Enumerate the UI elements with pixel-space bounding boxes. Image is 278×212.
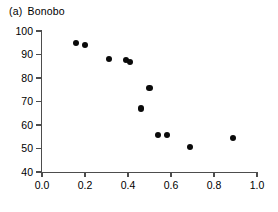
panel-tag-label: (a) (9, 5, 22, 17)
y-axis-tick (36, 148, 41, 149)
y-axis-tick-label: 90 (3, 49, 33, 60)
data-point (146, 85, 152, 91)
y-axis-tick-label: 80 (3, 73, 33, 84)
y-axis-tick-label: 70 (3, 96, 33, 107)
panel-title-label: Bonobo (27, 5, 64, 17)
x-axis-tick-label: 0.6 (151, 180, 191, 191)
x-axis-tick (213, 172, 214, 177)
data-point (138, 105, 144, 111)
y-axis-tick (36, 124, 41, 125)
y-axis-tick (36, 101, 41, 102)
data-point (106, 56, 112, 62)
y-axis-tick-label: 40 (3, 167, 33, 178)
data-point (164, 132, 170, 138)
x-axis-tick (256, 172, 257, 177)
y-axis-tick-label: 60 (3, 120, 33, 131)
y-axis-tick (36, 54, 41, 55)
x-axis-tick-label: 0.8 (194, 180, 234, 191)
x-axis-tick-label: 0.2 (65, 180, 105, 191)
plot-area (42, 31, 257, 172)
x-axis-tick (170, 172, 171, 177)
y-axis-tick-label: 50 (3, 143, 33, 154)
x-axis-tick (84, 172, 85, 177)
x-axis-tick-label: 0.4 (108, 180, 148, 191)
scatter-plot-figure: (a)Bonobo 405060708090100 0.00.20.40.60.… (0, 0, 278, 212)
y-axis-tick (36, 30, 41, 31)
x-axis-tick-label: 1.0 (237, 180, 277, 191)
x-axis-tick (41, 172, 42, 177)
x-axis-tick-label: 0.0 (22, 180, 62, 191)
y-axis-tick (36, 77, 41, 78)
y-axis-tick-label: 100 (3, 26, 33, 37)
y-axis-tick (36, 171, 41, 172)
x-axis-tick (127, 172, 128, 177)
panel-title: (a)Bonobo (9, 5, 65, 17)
